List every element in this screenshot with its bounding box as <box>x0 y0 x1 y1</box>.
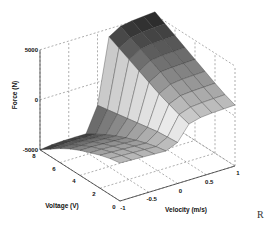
corner-mark: R <box>257 209 264 220</box>
velocity-axis-line <box>120 166 235 201</box>
voltage-tick: 2 <box>92 191 96 197</box>
velocity-tick: -0.5 <box>147 196 158 202</box>
voltage-tick: 0 <box>112 204 116 210</box>
voltage-tick: 8 <box>32 153 36 159</box>
force-axis-title: Force (N) <box>11 81 19 110</box>
velocity-tick: 0.5 <box>205 179 214 185</box>
voltage-tick: 6 <box>52 166 56 172</box>
voltage-axis-title: Voltage (V) <box>45 202 78 210</box>
surface-chart: -50000500002468-1-0.500.51Force (N)Volta… <box>0 0 274 229</box>
velocity-tick: 0 <box>179 188 183 194</box>
velocity-axis-title: Velocity (m/s) <box>165 206 207 214</box>
force-tick: -5000 <box>23 147 39 153</box>
surface-mesh <box>40 12 235 163</box>
velocity-tick: -1 <box>120 205 126 211</box>
velocity-tick: 1 <box>236 170 240 176</box>
force-tick: 0 <box>35 97 39 103</box>
force-tick: 5000 <box>25 47 39 53</box>
voltage-tick: 4 <box>72 178 76 184</box>
